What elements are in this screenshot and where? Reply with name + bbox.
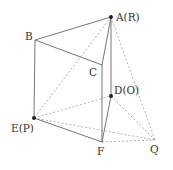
edge-BC [35, 40, 102, 65]
label-E: E(P) [11, 122, 34, 134]
edge-AB [35, 17, 111, 40]
label-B: B [25, 30, 33, 42]
edge-DF [102, 96, 111, 142]
label-A: A(R) [115, 11, 140, 23]
edge-AC [102, 17, 111, 65]
point-A [109, 15, 113, 19]
point-E [32, 116, 36, 120]
label-F: F [97, 145, 104, 157]
edge-FQ [102, 140, 155, 142]
solid-edges [34, 17, 111, 142]
edge-ED [34, 96, 111, 118]
vertex-labels: A(R) B C D(O) E(P) F Q [11, 11, 159, 157]
geometry-diagram: A(R) B C D(O) E(P) F Q [0, 0, 173, 170]
edge-BE [34, 40, 35, 118]
label-Q: Q [150, 143, 159, 155]
edge-AQ [111, 17, 155, 140]
label-C: C [89, 66, 97, 78]
label-D: D(O) [114, 84, 139, 96]
point-D [109, 94, 113, 98]
edge-EF [34, 118, 102, 142]
edge-AE [34, 17, 111, 118]
dashed-edges [34, 17, 155, 142]
